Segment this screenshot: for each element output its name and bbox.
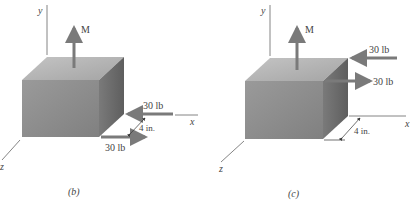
y-axis-label: y <box>260 5 266 16</box>
z-axis-label: z <box>0 161 4 172</box>
force-label-upper: 30 lb <box>143 100 163 111</box>
z-axis-label: z <box>218 163 223 174</box>
cube-front-face <box>22 80 99 137</box>
force-label-lower: 30 lb <box>373 76 393 87</box>
x-axis-label: x <box>189 116 195 127</box>
force-label-lower: 30 lb <box>105 142 125 153</box>
diagram-canvas: y x z M 30 lb 30 lb 4 in. (b) y x z <box>0 0 416 206</box>
caption-c: (c) <box>288 188 300 200</box>
figure-b: y x z M 30 lb 30 lb 4 in. (b) <box>0 5 198 198</box>
z-axis <box>2 140 20 160</box>
cube-front-face <box>245 81 323 139</box>
z-axis <box>221 141 244 162</box>
force-label-upper: 30 lb <box>369 44 389 55</box>
figure-c: y x z M 30 lb 30 lb 4 in. (c) <box>218 5 410 200</box>
moment-label: M <box>305 24 314 35</box>
x-axis-label: x <box>404 118 410 129</box>
moment-label: M <box>81 24 90 35</box>
dimension-label: 4 in. <box>354 126 370 136</box>
dimension-label: 4 in. <box>139 123 155 133</box>
caption-b: (b) <box>68 186 80 198</box>
y-axis-label: y <box>37 5 43 16</box>
